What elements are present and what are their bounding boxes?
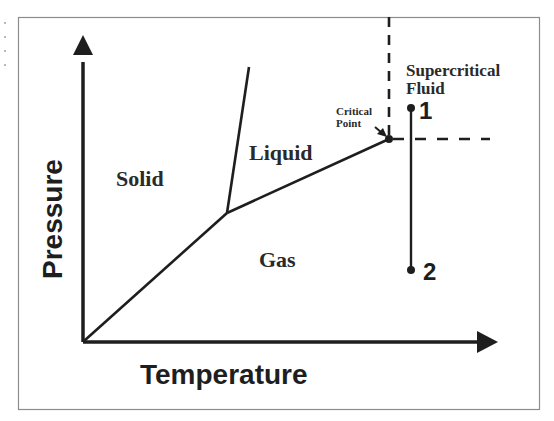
region-label-solid: Solid: [116, 166, 164, 191]
point-1-label: 1: [419, 97, 432, 124]
x-axis-label: Temperature: [140, 359, 308, 390]
y-axis-label: Pressure: [37, 159, 68, 279]
point-2-label: 2: [423, 258, 436, 285]
critical-point-label-line1: Critical: [336, 105, 372, 117]
region-label-fluid: Fluid: [406, 79, 445, 98]
region-label-gas: Gas: [259, 247, 296, 272]
phase-diagram: Solid Liquid Gas Supercritical Fluid Cri…: [0, 0, 554, 421]
region-label-supercritical: Supercritical: [406, 61, 500, 80]
critical-point-label-line2: Point: [336, 117, 361, 129]
point-1-marker: [407, 104, 415, 112]
region-label-liquid: Liquid: [249, 140, 313, 165]
point-2-marker: [407, 266, 415, 274]
